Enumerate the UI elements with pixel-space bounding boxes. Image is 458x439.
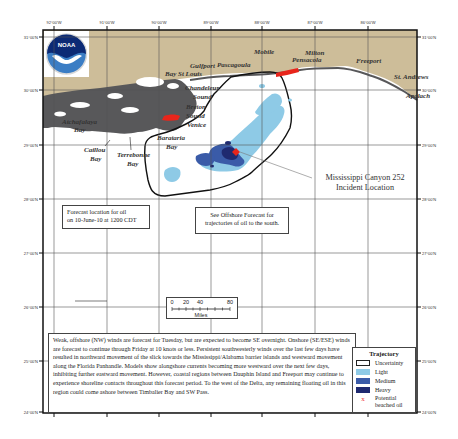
forecast-time-box: Forecast location for oil on 10-June-10 … [62, 205, 150, 229]
uncertainty-swatch [356, 360, 370, 366]
svg-text:92°00'W: 92°00'W [46, 20, 61, 25]
svg-text:Caillou: Caillou [84, 146, 106, 154]
forecast-discussion: Weak, offshore (NW) winds are forecast f… [48, 333, 356, 413]
legend-item-uncertainty: Uncertainty [356, 358, 412, 367]
svg-text:26°00'N: 26°00'N [422, 305, 436, 310]
svg-text:91°00'W: 91°00'W [99, 20, 114, 25]
svg-text:Mobile: Mobile [253, 48, 274, 56]
beached-oil-x-icon: x [356, 395, 370, 403]
svg-text:26°00'N: 26°00'N [24, 305, 38, 310]
svg-text:88°00'W: 88°00'W [254, 20, 269, 25]
svg-text:Pensacola: Pensacola [292, 56, 322, 64]
svg-text:29°00'N: 29°00'N [422, 143, 436, 148]
svg-text:25°00'N: 25°00'N [422, 359, 436, 364]
svg-text:80: 80 [227, 299, 233, 305]
svg-text:90°00'W: 90°00'W [151, 20, 166, 25]
svg-text:24°00'N: 24°00'N [24, 410, 38, 415]
svg-text:24°00'N: 24°00'N [422, 410, 436, 415]
svg-text:20: 20 [183, 299, 189, 305]
svg-text:Atchafalaya: Atchafalaya [61, 118, 97, 126]
svg-text:St. Andrews: St. Andrews [394, 73, 429, 81]
svg-text:28°00'N: 28°00'N [422, 197, 436, 202]
svg-text:29°00'N: 29°00'N [24, 143, 38, 148]
svg-text:Miles: Miles [195, 312, 208, 318]
light-swatch [356, 369, 370, 375]
trajectory-legend: Trajectory Uncertainty Light Medium Heav… [352, 347, 416, 413]
svg-text:Pascagoula: Pascagoula [217, 61, 251, 69]
svg-text:27°00'N: 27°00'N [24, 251, 38, 256]
noaa-logo-text: NOAA [58, 42, 76, 48]
lake-borgne [167, 83, 179, 89]
svg-text:Gulfport: Gulfport [190, 62, 216, 70]
svg-text:87°00'W: 87°00'W [307, 20, 322, 25]
legend-item-heavy: Heavy [356, 385, 412, 394]
svg-text:31°00'N: 31°00'N [422, 35, 436, 40]
scale-bar-graphic: 0 20 40 80 Miles [167, 298, 237, 318]
svg-text:89°00'W: 89°00'W [203, 20, 218, 25]
lake-small-3 [121, 107, 139, 113]
svg-text:0: 0 [170, 299, 173, 305]
lake-small-4 [54, 112, 66, 117]
svg-text:Terrebonne: Terrebonne [117, 151, 150, 159]
lake-pontchartrain [136, 77, 164, 87]
lake-small-1 [107, 93, 123, 99]
svg-text:Bay: Bay [89, 155, 102, 163]
heavy-swatch [356, 387, 370, 393]
top-axis-labels: 92°00'W 91°00'W 90°00'W 89°00'W 88°00'W … [46, 20, 375, 25]
svg-text:Sound: Sound [193, 93, 212, 101]
svg-text:28°00'N: 28°00'N [24, 197, 38, 202]
svg-text:Apalach: Apalach [405, 92, 430, 100]
svg-text:Barataria: Barataria [156, 134, 186, 142]
svg-text:40: 40 [197, 299, 203, 305]
left-axis-labels: 31°00'N 30°00'N 29°00'N 28°00'N 27°00'N … [24, 35, 38, 415]
svg-text:Bay: Bay [165, 143, 178, 151]
legend-item-medium: Medium [356, 376, 412, 385]
offshore-forecast-note: See Offshore Forecast for trajectories o… [195, 207, 289, 234]
svg-text:Bay: Bay [73, 126, 86, 134]
svg-text:25°00'N: 25°00'N [24, 359, 38, 364]
svg-text:Bay St Louis: Bay St Louis [164, 70, 202, 78]
noaa-logo: NOAA [44, 31, 89, 77]
svg-text:Chandeleur: Chandeleur [185, 84, 220, 92]
legend-title: Trajectory [356, 350, 412, 357]
svg-text:Breton: Breton [185, 103, 206, 111]
incident-location-label: Mississippi Canyon 252 Incident Location [316, 173, 414, 193]
legend-item-light: Light [356, 367, 412, 376]
svg-text:31°00'N: 31°00'N [24, 35, 38, 40]
svg-text:Sound: Sound [186, 112, 205, 120]
svg-text:Bay: Bay [126, 160, 139, 168]
svg-text:86°00'W: 86°00'W [360, 20, 375, 25]
svg-text:30°00'N: 30°00'N [24, 88, 38, 93]
legend-item-beached-oil: x Potential beached oil [356, 395, 412, 409]
lake-small-2 [70, 102, 90, 108]
svg-text:Venice: Venice [187, 121, 206, 129]
svg-text:Freeport: Freeport [356, 57, 382, 65]
svg-text:27°00'N: 27°00'N [422, 251, 436, 256]
medium-swatch [356, 378, 370, 384]
scale-bar: 0 20 40 80 Miles [166, 297, 238, 319]
